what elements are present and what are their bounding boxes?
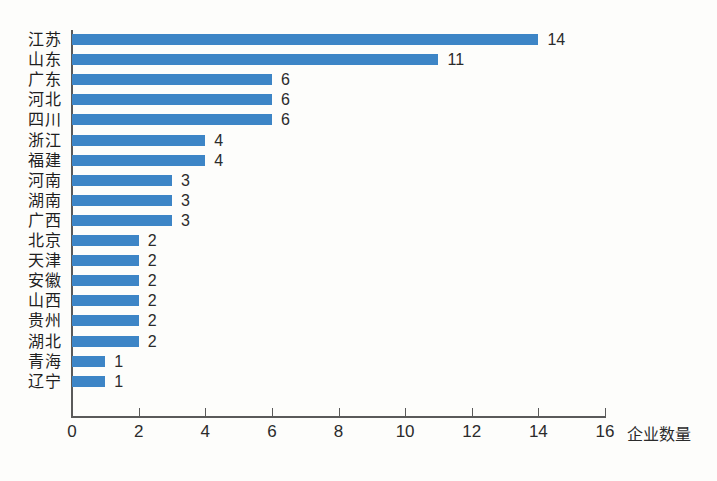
category-label: 河北 (0, 90, 62, 110)
x-axis-tick-label: 16 (596, 422, 615, 442)
category-label: 辽宁 (0, 372, 62, 392)
x-axis-tick-label: 2 (134, 422, 143, 442)
bar-value-label: 2 (148, 332, 157, 352)
bar-row: 湖北2 (0, 332, 717, 352)
bar-row: 河北6 (0, 90, 717, 110)
x-axis-tick (339, 408, 340, 416)
bar-value-label: 2 (148, 271, 157, 291)
category-label: 北京 (0, 231, 62, 251)
x-axis-tick-label: 6 (267, 422, 276, 442)
bar-value-label: 11 (447, 50, 464, 70)
bar-value-label: 4 (214, 131, 223, 151)
category-label: 四川 (0, 110, 62, 130)
category-label: 湖北 (0, 332, 62, 352)
category-label: 贵州 (0, 311, 62, 331)
bar-value-label: 2 (148, 291, 157, 311)
bar-row: 浙江4 (0, 131, 717, 151)
bar-value-label: 3 (181, 211, 190, 231)
bar-row: 辽宁1 (0, 372, 717, 392)
bar-row: 天津2 (0, 251, 717, 271)
bar (72, 336, 139, 347)
bar-row: 福建4 (0, 151, 717, 171)
bar-value-label: 1 (114, 372, 123, 392)
bar (72, 34, 538, 45)
x-axis-tick (472, 408, 473, 416)
bar (72, 94, 272, 105)
bar-value-label: 6 (281, 70, 290, 90)
bar-row: 贵州2 (0, 311, 717, 331)
bar (72, 74, 272, 85)
category-label: 天津 (0, 251, 62, 271)
x-axis-title: 企业数量 (627, 421, 691, 445)
bar (72, 195, 172, 206)
bar-row: 河南3 (0, 171, 717, 191)
bar-value-label: 2 (148, 231, 157, 251)
bar-value-label: 14 (547, 30, 565, 50)
bar-row: 湖南3 (0, 191, 717, 211)
bar-row: 北京2 (0, 231, 717, 251)
category-label: 河南 (0, 171, 62, 191)
x-axis-tick (405, 408, 406, 416)
bar (72, 275, 139, 286)
x-axis-tick-label: 14 (529, 422, 548, 442)
x-axis-tick (605, 408, 606, 416)
category-label: 青海 (0, 352, 62, 372)
category-label: 山西 (0, 291, 62, 311)
bar-value-label: 3 (181, 191, 190, 211)
bar-row: 广西3 (0, 211, 717, 231)
bar-row: 山东11 (0, 50, 717, 70)
x-axis-tick-label: 10 (396, 422, 415, 442)
x-axis-tick-label: 8 (334, 422, 343, 442)
bar (72, 356, 105, 367)
bar (72, 315, 139, 326)
bar (72, 155, 205, 166)
bar-row: 山西2 (0, 291, 717, 311)
category-label: 湖南 (0, 191, 62, 211)
bar (72, 175, 172, 186)
bar-row: 安徽2 (0, 271, 717, 291)
bar-value-label: 6 (281, 110, 290, 130)
category-label: 广东 (0, 70, 62, 90)
bar (72, 376, 105, 387)
bar (72, 135, 205, 146)
bar (72, 114, 272, 125)
category-label: 广西 (0, 211, 62, 231)
x-axis-tick-label: 12 (462, 422, 481, 442)
category-label: 福建 (0, 151, 62, 171)
x-axis-tick (205, 408, 206, 416)
category-label: 山东 (0, 50, 62, 70)
bar-row: 广东6 (0, 70, 717, 90)
bar-value-label: 6 (281, 90, 290, 110)
bar-chart: 0246810121416 江苏14山东11广东6河北6四川6浙江4福建4河南3… (0, 0, 717, 481)
category-label: 安徽 (0, 271, 62, 291)
bar-value-label: 4 (214, 151, 223, 171)
x-axis-tick-label: 0 (67, 422, 76, 442)
x-axis-tick-label: 4 (201, 422, 210, 442)
x-axis-line (71, 416, 606, 418)
x-axis-tick (139, 408, 140, 416)
bar-value-label: 2 (148, 251, 157, 271)
x-axis-tick (72, 408, 73, 416)
bar-row: 青海1 (0, 352, 717, 372)
bar (72, 235, 139, 246)
bar (72, 295, 139, 306)
bar (72, 255, 139, 266)
bar-row: 四川6 (0, 110, 717, 130)
x-axis-tick (538, 408, 539, 416)
category-label: 浙江 (0, 131, 62, 151)
bar (72, 54, 438, 65)
bar-value-label: 3 (181, 171, 190, 191)
bar-row: 江苏14 (0, 30, 717, 50)
bar-value-label: 2 (148, 311, 157, 331)
category-label: 江苏 (0, 30, 62, 50)
bar-value-label: 1 (114, 352, 123, 372)
x-axis-tick (272, 408, 273, 416)
bar (72, 215, 172, 226)
